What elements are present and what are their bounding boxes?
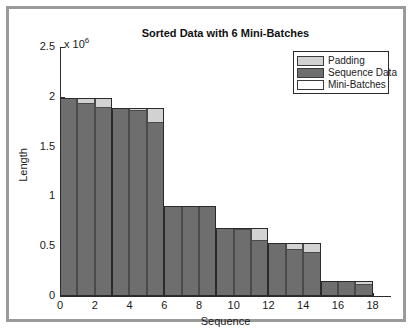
mini-batch-outline [321, 281, 373, 296]
x-tick-label: 14 [288, 300, 318, 311]
y-tick-label: 1.5 [9, 141, 55, 152]
y-tick-label: 1 [9, 190, 55, 201]
x-tick-label: 12 [253, 300, 283, 311]
x-tick-label: 18 [358, 300, 388, 311]
legend-item: Mini-Batches [297, 80, 387, 91]
legend-swatch [297, 68, 324, 78]
x-tick-label: 6 [149, 300, 179, 311]
legend-label: Sequence Data [328, 67, 397, 78]
mini-batch-outline [60, 98, 112, 296]
mini-batch-outline [164, 206, 216, 296]
chart-legend: PaddingSequence DataMini-Batches [293, 51, 389, 94]
mini-batch-outline [216, 228, 268, 296]
legend-label: Padding [328, 55, 365, 66]
y-tick-label: 0.5 [9, 240, 55, 251]
y-tick-mark [61, 296, 65, 297]
figure-frame: Sorted Data with 6 Mini-Batches x 106 Le… [6, 6, 406, 322]
y-tick-label: 2 [9, 91, 55, 102]
mini-batch-outline [268, 243, 320, 296]
legend-swatch [297, 80, 324, 90]
x-tick-label: 4 [114, 300, 144, 311]
x-tick-label: 8 [184, 300, 214, 311]
x-tick-label: 2 [80, 300, 110, 311]
x-axis-title: Sequence [60, 315, 391, 327]
x-tick-label: 16 [323, 300, 353, 311]
x-tick-label: 0 [45, 300, 75, 311]
page-title: Sorted Data with 6 Mini-Batches [60, 27, 391, 39]
legend-label: Mini-Batches [328, 79, 386, 90]
y-tick-label: 2.5 [9, 41, 55, 52]
legend-item: Padding [297, 56, 387, 67]
mini-batch-outline [112, 108, 164, 296]
x-tick-label: 10 [219, 300, 249, 311]
legend-swatch [297, 56, 324, 66]
x-axis-line [60, 296, 391, 297]
legend-item: Sequence Data [297, 68, 387, 79]
y-axis-exponent-power: 6 [85, 36, 89, 45]
